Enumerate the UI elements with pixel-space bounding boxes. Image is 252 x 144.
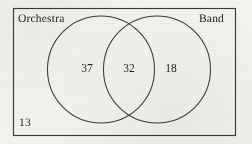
count-intersection: 32 bbox=[116, 62, 142, 75]
count-orchestra-only: 37 bbox=[74, 62, 100, 75]
outside-count-label: 13 bbox=[19, 117, 31, 130]
count-band-only: 18 bbox=[158, 62, 184, 75]
set-label-orchestra: Orchestra bbox=[18, 13, 65, 26]
venn-diagram-figure: Orchestra Band 13 37 32 18 bbox=[0, 0, 252, 144]
set-label-band: Band bbox=[199, 13, 224, 26]
